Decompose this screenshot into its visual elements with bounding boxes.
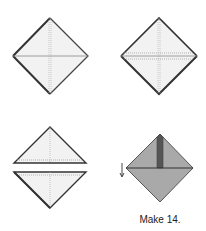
step-3-split-triangles	[14, 127, 86, 208]
step-1-diamond	[13, 18, 88, 94]
diagram-canvas	[0, 0, 206, 231]
step-caption: Make 14.	[128, 214, 192, 225]
step-4-shaded-unit	[126, 134, 193, 202]
fold-arrow-icon	[120, 163, 124, 177]
step-2-diamond	[121, 18, 197, 94]
